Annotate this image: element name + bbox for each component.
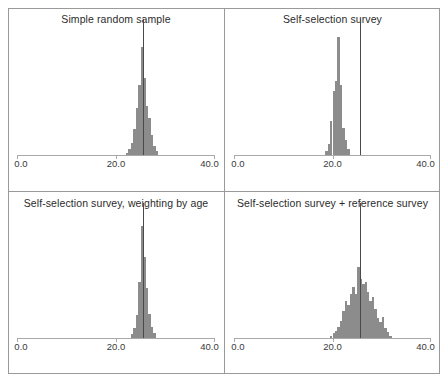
reference-line xyxy=(360,203,361,339)
histogram-bars xyxy=(17,32,215,155)
axis-tick-label: 0.0 xyxy=(231,158,244,169)
panel-self-selection-plus-reference-survey: Self-selection survey + reference survey… xyxy=(224,191,440,374)
histogram-matrix-figure: Simple random sample 0.020.040.0 Self-se… xyxy=(0,0,448,382)
axis-tick-label: 0.0 xyxy=(14,341,27,352)
panel-title: Simple random sample xyxy=(8,13,224,25)
panel-title: Self-selection survey xyxy=(225,13,440,25)
axis-tick-label: 40.0 xyxy=(200,341,219,352)
x-axis-line xyxy=(17,338,215,339)
axis-tick-label: 0.0 xyxy=(231,341,244,352)
panel-simple-random-sample: Simple random sample 0.020.040.0 xyxy=(8,8,224,191)
panel-title: Self-selection survey, weighting by age xyxy=(8,197,224,209)
x-axis-line xyxy=(234,338,431,339)
axis-tick-label: 20.0 xyxy=(323,158,342,169)
reference-line xyxy=(143,203,144,339)
reference-line xyxy=(143,19,144,156)
panel-title: Self-selection survey + reference survey xyxy=(225,197,440,209)
panel-self-selection-weighting-by-age: Self-selection survey, weighting by age … xyxy=(8,191,224,374)
axis-tick-label: 20.0 xyxy=(107,341,126,352)
x-axis-tick-labels: 0.020.040.0 xyxy=(234,158,431,171)
x-axis-tick-labels: 0.020.040.0 xyxy=(234,341,431,354)
axis-tick-label: 20.0 xyxy=(323,341,342,352)
axis-tick-label: 40.0 xyxy=(200,158,219,169)
histogram-bars xyxy=(234,32,431,155)
x-axis-tick-labels: 0.020.040.0 xyxy=(17,341,215,354)
axis-tick-label: 40.0 xyxy=(416,158,435,169)
x-axis-tick-labels: 0.020.040.0 xyxy=(17,158,215,171)
axis-tick-label: 40.0 xyxy=(416,341,435,352)
axis-tick-label: 20.0 xyxy=(107,158,126,169)
plot-area xyxy=(234,216,431,338)
x-axis-line xyxy=(17,155,215,156)
panel-self-selection-survey: Self-selection survey 0.020.040.0 xyxy=(224,8,440,191)
x-axis-line xyxy=(234,155,431,156)
panel-grid: Simple random sample 0.020.040.0 Self-se… xyxy=(8,8,440,374)
histogram-bars xyxy=(234,216,431,338)
histogram-bars xyxy=(17,216,215,338)
axis-tick-label: 0.0 xyxy=(14,158,27,169)
plot-area xyxy=(17,216,215,338)
reference-line xyxy=(360,19,361,156)
plot-area xyxy=(17,32,215,155)
plot-area xyxy=(234,32,431,155)
